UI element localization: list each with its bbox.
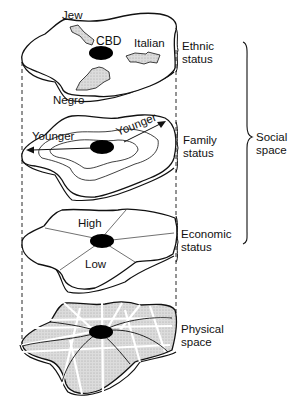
- younger-left-label: Younger: [32, 130, 75, 142]
- italian-label: Italian: [134, 37, 165, 49]
- high-label: High: [78, 217, 102, 229]
- cbd-marker: [89, 46, 113, 60]
- label-line: Social: [256, 131, 287, 144]
- social-space-layers-diagram: Jew CBD Italian Negro Younger Younger Hi…: [0, 0, 306, 404]
- label-line: status: [182, 53, 214, 66]
- cbd-marker: [90, 140, 114, 154]
- jew-label: Jew: [62, 9, 83, 21]
- ethnic-layer: [22, 13, 177, 101]
- label-line: Economic: [181, 228, 232, 241]
- negro-label: Negro: [53, 94, 84, 106]
- label-line: Ethnic: [182, 40, 214, 53]
- cbd-marker: [90, 234, 114, 248]
- label-line: space: [256, 144, 287, 157]
- economic-status-label: Economic status: [181, 228, 232, 253]
- label-line: Family: [183, 134, 217, 147]
- label-line: status: [183, 147, 217, 160]
- label-line: Physical: [181, 323, 224, 336]
- social-space-brace: [243, 42, 252, 244]
- label-line: space: [181, 336, 224, 349]
- label-line: status: [181, 241, 232, 254]
- low-label: Low: [85, 258, 107, 270]
- cbd-marker: [89, 325, 113, 339]
- physical-layer: [20, 300, 176, 395]
- ethnic-status-label: Ethnic status: [182, 40, 214, 65]
- family-status-label: Family status: [183, 134, 217, 159]
- physical-space-label: Physical space: [181, 323, 224, 348]
- cbd-label: CBD: [96, 34, 122, 48]
- family-layer: [22, 115, 176, 201]
- social-space-label: Social space: [256, 131, 287, 156]
